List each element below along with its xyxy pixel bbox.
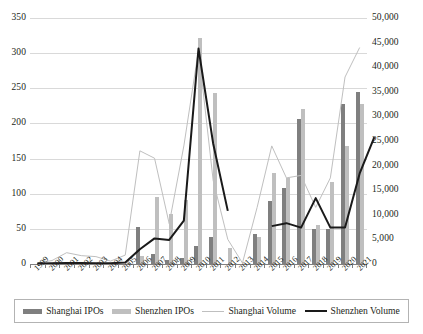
right-axis-tick-label: 5,000 [372, 234, 394, 244]
x-axis-tick [147, 265, 148, 268]
legend-swatch-icon [305, 310, 327, 312]
right-axis-tick-label: 50,000 [372, 13, 399, 23]
right-axis-tick-label: 20,000 [372, 161, 399, 171]
legend-label: Shanghai IPOs [46, 306, 103, 316]
x-axis-tick [133, 265, 134, 268]
x-axis-tick [206, 265, 207, 268]
right-axis-tick-label: 25,000 [372, 136, 399, 146]
left-axis-tick-label: 250 [11, 83, 26, 93]
x-axis-tick [264, 265, 265, 268]
right-axis-tick-label: 45,000 [372, 38, 399, 48]
left-axis-tick-label: 50 [16, 224, 26, 234]
line-shenzhen-volume [272, 137, 375, 228]
x-axis-tick [103, 265, 104, 268]
line-shanghai-volume [37, 48, 359, 264]
ipo-volume-chart: 050100150200250300350 05,00010,00015,000… [0, 0, 423, 334]
left-axis-tick-label: 200 [11, 118, 26, 128]
legend-label: Shenzhen Volume [331, 306, 400, 316]
x-axis-tick [250, 265, 251, 268]
lines-layer [30, 18, 367, 264]
line-shenzhen-volume [37, 49, 227, 264]
x-axis-tick [366, 265, 367, 268]
legend-swatch-icon [202, 311, 224, 312]
x-axis-tick [118, 265, 119, 268]
left-axis-tick-label: 350 [11, 13, 26, 23]
x-axis-tick [294, 265, 295, 268]
right-axis-tick-label: 10,000 [372, 210, 399, 220]
x-axis-tick [59, 265, 60, 268]
legend-swatch-icon [112, 309, 131, 314]
x-axis-tick [338, 265, 339, 268]
legend-label: Shenzhen IPOs [135, 306, 194, 316]
x-axis-tick [89, 265, 90, 268]
x-axis-tick [323, 265, 324, 268]
right-axis-tick-label: 15,000 [372, 185, 399, 195]
x-axis-labels: 1999200020012002200320042005200620072008… [30, 265, 367, 295]
plot-area: 050100150200250300350 05,00010,00015,000… [30, 18, 367, 264]
legend-label: Shanghai Volume [228, 306, 296, 316]
left-axis-tick-label: 0 [21, 259, 26, 269]
x-axis-tick [308, 265, 309, 268]
legend-item-shanghai-volume[interactable]: Shanghai Volume [202, 306, 296, 316]
right-axis-tick-label: 30,000 [372, 111, 399, 121]
x-axis-tick [45, 265, 46, 268]
x-axis-tick [30, 265, 31, 268]
x-axis-tick [220, 265, 221, 268]
left-axis-tick-label: 150 [11, 154, 26, 164]
legend-item-shanghai-ipos[interactable]: Shanghai IPOs [23, 306, 103, 316]
left-axis-tick-label: 300 [11, 48, 26, 58]
x-axis-tick [279, 265, 280, 268]
chart-legend: Shanghai IPOsShenzhen IPOsShanghai Volum… [14, 299, 409, 323]
x-axis-tick [352, 265, 353, 268]
left-axis-tick-label: 100 [11, 189, 26, 199]
x-axis-tick [162, 265, 163, 268]
legend-item-shenzhen-volume[interactable]: Shenzhen Volume [305, 306, 400, 316]
x-axis-tick [235, 265, 236, 268]
legend-item-shenzhen-ipos[interactable]: Shenzhen IPOs [112, 306, 194, 316]
x-axis-tick [74, 265, 75, 268]
legend-swatch-icon [23, 309, 42, 314]
right-axis-tick-label: 40,000 [372, 62, 399, 72]
x-axis-tick [177, 265, 178, 268]
x-axis-tick [191, 265, 192, 268]
right-axis-tick-label: 35,000 [372, 87, 399, 97]
